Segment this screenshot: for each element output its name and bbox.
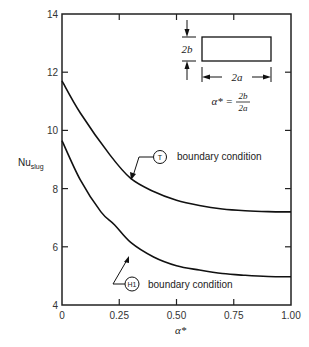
- h1-symbol: H1: [128, 281, 137, 288]
- x-tick-label: 0.50: [167, 310, 187, 321]
- height-label: 2b: [182, 43, 194, 55]
- x-tick-label: 0.25: [110, 310, 130, 321]
- formula-numerator: 2b: [239, 91, 249, 101]
- x-axis-label: α*: [175, 324, 187, 336]
- inset-diagram: 2b 2a α* = 2b 2a: [182, 20, 272, 113]
- x-tick-label: 0.75: [224, 310, 244, 321]
- duct-cross-section: [202, 37, 271, 61]
- t-symbol: T: [158, 154, 163, 161]
- y-tick-label: 6: [52, 242, 58, 253]
- formula-lhs: α* =: [212, 95, 233, 107]
- curve-t-boundary: [62, 81, 291, 212]
- y-tick-label: 14: [47, 9, 59, 20]
- x-tick-label: 1.00: [281, 310, 301, 321]
- y-tick-label: 4: [52, 300, 58, 311]
- annotation-t: T boundary condition: [130, 151, 262, 181]
- y-axis-label: Nuslug: [18, 157, 44, 171]
- x-tick-label: 0: [59, 310, 65, 321]
- axis-tick-labels: 00.250.500.751.00468101214: [47, 9, 301, 321]
- y-tick-label: 8: [52, 184, 58, 195]
- y-tick-label: 10: [47, 125, 59, 136]
- formula-denominator: 2a: [239, 103, 249, 113]
- width-label: 2a: [232, 71, 244, 83]
- h1-boundary-label: boundary condition: [148, 279, 233, 290]
- y-tick-label: 12: [47, 67, 59, 78]
- chart: 00.250.500.751.00468101214 Nuslug α* T b…: [0, 0, 309, 347]
- annotation-h1: H1 boundary condition: [113, 256, 233, 291]
- t-boundary-label: boundary condition: [177, 151, 262, 162]
